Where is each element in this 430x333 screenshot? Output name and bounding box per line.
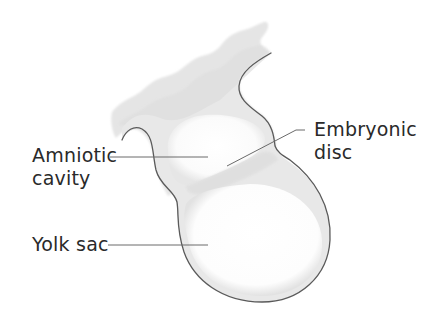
amniotic-cavity-label-line2: cavity <box>32 167 117 190</box>
embryonic-disc-label-line1: Embryonic <box>314 118 417 141</box>
yolk-sac-label-text: Yolk sac <box>32 233 109 255</box>
amniotic-cavity-label-line1: Amniotic <box>32 144 117 167</box>
amniotic-cavity-label: Amniotic cavity <box>32 144 117 190</box>
embryonic-disc-label: Embryonic disc <box>314 118 417 164</box>
embryonic-disc-label-line2: disc <box>314 141 417 164</box>
yolk-sac-label: Yolk sac <box>32 233 109 256</box>
